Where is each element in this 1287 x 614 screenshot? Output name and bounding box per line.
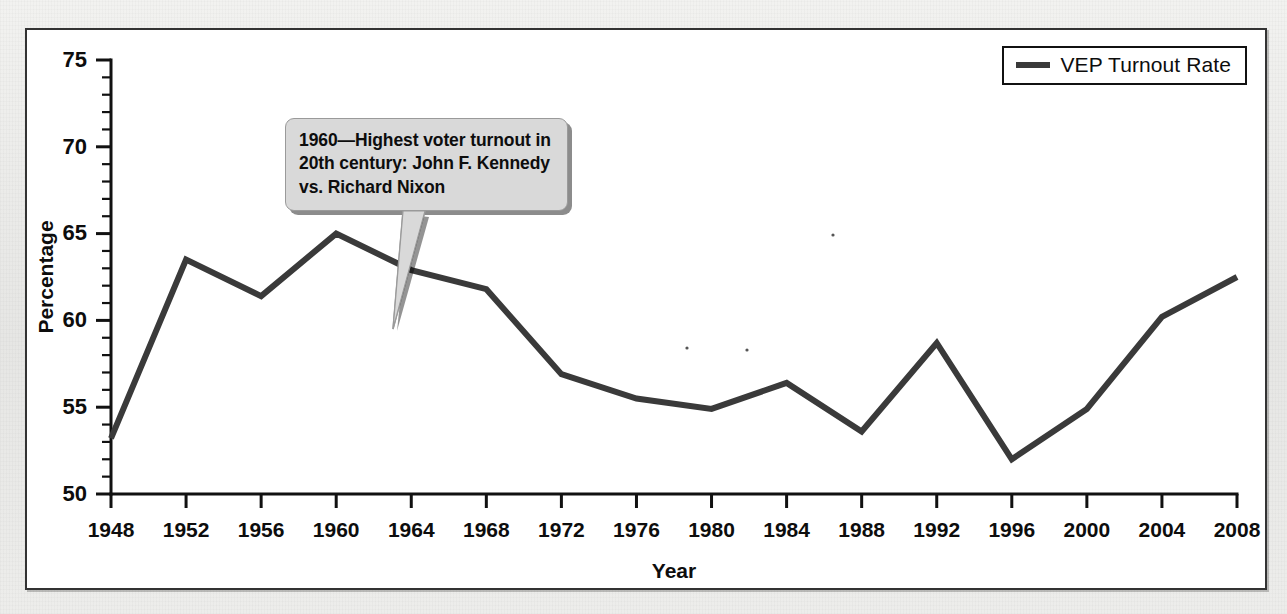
y-axis-title: Percentage bbox=[34, 220, 57, 333]
annotation-text: 1960—Highest voter turnout in 20th centu… bbox=[299, 129, 555, 199]
line-chart-plot: 5055606570751948195219561960196419681972… bbox=[27, 30, 1265, 588]
x-axis-tick-label: 2000 bbox=[1064, 518, 1111, 541]
y-axis-tick-label: 55 bbox=[63, 394, 87, 419]
x-axis-tick-label: 1972 bbox=[538, 518, 585, 541]
scan-speck bbox=[831, 233, 834, 236]
x-axis-tick-label: 1980 bbox=[688, 518, 735, 541]
x-axis-tick-label: 2004 bbox=[1139, 518, 1186, 541]
x-axis-tick-label: 1952 bbox=[163, 518, 210, 541]
series-line-vep-turnout-rate bbox=[111, 234, 1237, 460]
y-axis-tick-label: 70 bbox=[63, 134, 87, 159]
legend-label: VEP Turnout Rate bbox=[1061, 53, 1231, 77]
y-axis-tick-label: 75 bbox=[63, 47, 87, 72]
x-axis-tick-label: 1976 bbox=[613, 518, 660, 541]
x-axis-tick-label: 1988 bbox=[838, 518, 885, 541]
chart-figure-frame: 5055606570751948195219561960196419681972… bbox=[25, 28, 1267, 590]
x-axis-tick-label: 2008 bbox=[1214, 518, 1261, 541]
legend-line-swatch-icon bbox=[1016, 62, 1050, 68]
x-axis-tick-label: 1948 bbox=[88, 518, 135, 541]
x-axis-tick-label: 1992 bbox=[913, 518, 960, 541]
x-axis-tick-label: 1968 bbox=[463, 518, 510, 541]
x-axis-title: Year bbox=[652, 559, 696, 582]
x-axis-tick-label: 1964 bbox=[388, 518, 435, 541]
scan-speck bbox=[685, 346, 688, 349]
x-axis-tick-label: 1984 bbox=[763, 518, 810, 541]
scan-speck bbox=[745, 348, 748, 351]
x-axis-tick-label: 1996 bbox=[988, 518, 1035, 541]
x-axis-tick-label: 1956 bbox=[238, 518, 285, 541]
y-axis-tick-label: 50 bbox=[63, 481, 87, 506]
x-axis-tick-label: 1960 bbox=[313, 518, 360, 541]
y-axis-tick-label: 65 bbox=[63, 220, 87, 245]
chart-legend[interactable]: VEP Turnout Rate bbox=[1002, 46, 1247, 85]
annotation-callout[interactable]: 1960—Highest voter turnout in 20th centu… bbox=[285, 118, 568, 211]
y-axis-tick-label: 60 bbox=[63, 307, 87, 332]
annotation-bubble: 1960—Highest voter turnout in 20th centu… bbox=[285, 118, 568, 211]
